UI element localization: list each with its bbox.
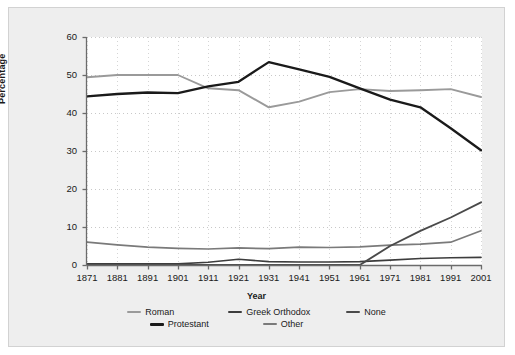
legend-item-protestant[interactable]: Protestant (150, 319, 209, 329)
y-tick-label: 30 (51, 145, 77, 156)
y-tick-label: 60 (51, 31, 77, 42)
y-tick-label: 40 (51, 107, 77, 118)
x-tick-label: 2001 (461, 272, 501, 283)
legend-item-greek-orthodox[interactable]: Greek Orthodox (228, 307, 310, 317)
legend-row: RomanGreek OrthodoxNone (127, 307, 386, 317)
legend-label: Other (281, 319, 304, 329)
legend-row: ProtestantOther (150, 319, 304, 329)
legend-item-roman[interactable]: Roman (127, 307, 174, 317)
x-axis-title: Year (9, 291, 504, 301)
legend-label: Greek Orthodox (246, 307, 310, 317)
line-chart-svg (87, 37, 482, 265)
y-tick-label: 10 (51, 221, 77, 232)
y-tick-label: 0 (51, 259, 77, 270)
legend-item-none[interactable]: None (346, 307, 386, 317)
y-tick-label: 20 (51, 183, 77, 194)
legend-swatch-icon (228, 311, 242, 313)
legend-swatch-icon (127, 311, 141, 313)
legend-label: Roman (145, 307, 174, 317)
legend-swatch-icon (263, 323, 277, 325)
y-axis-title: Percentage (0, 53, 7, 104)
legend-label: Protestant (168, 319, 209, 329)
legend-item-other[interactable]: Other (263, 319, 304, 329)
legend-swatch-icon (346, 311, 360, 313)
y-tick-label: 50 (51, 69, 77, 80)
chart-panel: Percentage 0102030405060 187118811891190… (8, 7, 505, 347)
legend-label: None (364, 307, 386, 317)
chart-legend: RomanGreek OrthodoxNoneProtestantOther (9, 307, 504, 329)
legend-swatch-icon (150, 323, 164, 326)
plot-area (87, 37, 482, 265)
